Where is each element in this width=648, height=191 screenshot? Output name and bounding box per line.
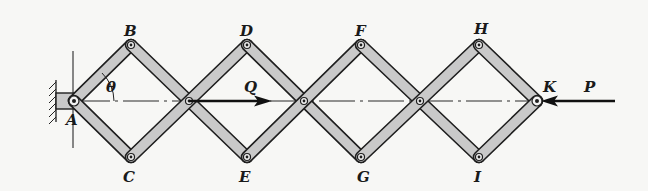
force-q-label: Q (244, 78, 257, 96)
pin-e-center (246, 156, 249, 159)
pin-f-center (360, 44, 363, 47)
force-p-arrow (541, 96, 615, 107)
pin-b-center (130, 44, 133, 47)
wall-hatching-icon (49, 82, 56, 124)
pin-k-center (535, 99, 539, 103)
pin-h-center (478, 44, 481, 47)
pin-g-center (360, 156, 363, 159)
joint-label-g: G (357, 168, 370, 186)
joint-label-a: A (64, 111, 78, 129)
pin-crossing-x3-center (419, 100, 422, 103)
pin-d-center (246, 44, 249, 47)
pin-a-center (72, 99, 76, 103)
joint-label-i: I (473, 168, 482, 186)
joint-label-d: D (239, 22, 253, 40)
joint-label-e: E (238, 168, 251, 186)
joint-label-k: K (542, 78, 557, 96)
pin-crossing-x2-center (303, 100, 306, 103)
theta-label: θ (106, 78, 116, 96)
pin-c-center (130, 156, 133, 159)
joint-label-b: B (123, 22, 137, 40)
joint-label-h: H (473, 20, 489, 38)
pin-i-center (478, 156, 481, 159)
force-p-label: P (583, 78, 596, 96)
joint-label-f: F (354, 22, 367, 40)
scissor-linkage-diagram: θ Q P A B C D E F G H I K (0, 0, 648, 191)
joint-label-c: C (123, 168, 135, 186)
